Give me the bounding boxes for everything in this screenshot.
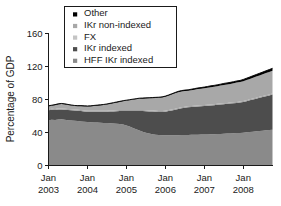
legend-label: Other <box>84 7 108 18</box>
stacked-areas <box>49 68 273 165</box>
legend-label: HFF IKr indexed <box>84 54 153 65</box>
legend-label: IKr non-indexed <box>84 19 151 30</box>
legend-swatch-other <box>73 12 77 16</box>
x-tick-label-month: Jan <box>80 172 95 183</box>
y-tick-label: 120 <box>27 61 43 72</box>
x-tick-label-year: 2008 <box>233 184 254 195</box>
y-tick-label: 40 <box>32 127 43 138</box>
y-tick-label: 160 <box>27 28 43 39</box>
x-tick-label-month: Jan <box>119 172 134 183</box>
x-tick-label-year: 2007 <box>194 184 215 195</box>
legend-swatch-hff-ikr-indexed <box>73 59 77 63</box>
chart-figure: 04080120160 Jan2003Jan2004Jan2005Jan2006… <box>0 0 281 206</box>
y-axis-ticks: 04080120160 <box>27 28 49 171</box>
y-tick-label: 80 <box>32 94 43 105</box>
x-tick-label-year: 2004 <box>77 184 98 195</box>
x-tick-label-year: 2005 <box>116 184 137 195</box>
legend-swatch-ikr-indexed <box>73 47 77 51</box>
legend-swatch-ikr-non-indexed <box>73 24 77 28</box>
x-tick-label-month: Jan <box>236 172 251 183</box>
legend-label: IKr indexed <box>84 42 132 53</box>
y-tick-label: 0 <box>37 160 42 171</box>
x-tick-label-month: Jan <box>41 172 56 183</box>
chart-legend: OtherIKr non-indexedFXIKr indexedHFF IKr… <box>65 7 177 68</box>
y-axis-label: Percentage of GDP <box>5 55 16 142</box>
stacked-area-chart: 04080120160 Jan2003Jan2004Jan2005Jan2006… <box>0 0 281 206</box>
legend-swatch-fx <box>73 36 77 40</box>
x-tick-label-month: Jan <box>197 172 212 183</box>
x-tick-label-year: 2003 <box>38 184 59 195</box>
x-tick-label-month: Jan <box>158 172 173 183</box>
x-tick-label-year: 2006 <box>155 184 176 195</box>
x-axis-ticks: Jan2003Jan2004Jan2005Jan2006Jan2007Jan20… <box>38 166 254 195</box>
legend-label: FX <box>84 31 97 42</box>
